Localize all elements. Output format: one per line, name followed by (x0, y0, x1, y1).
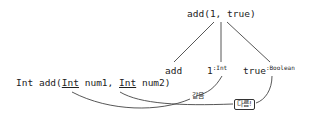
child-true: true:Boolean (243, 65, 295, 76)
function-name: add( (39, 77, 62, 88)
child-true-type: :Boolean (266, 64, 295, 71)
root-call: add(1, true) (187, 8, 256, 19)
child-1-type: :Int (213, 64, 227, 71)
child-add-label: add (165, 65, 182, 76)
param2-type: Int (119, 77, 136, 88)
return-type: Int (16, 77, 33, 88)
link-bool-to-different (256, 76, 272, 103)
child-true-label: true (243, 65, 266, 76)
param2-name: num2) (136, 77, 170, 88)
function-signature: Int add(Int num1, Int num2) (16, 77, 171, 88)
diagram-connectors (0, 0, 312, 119)
link-different-to-param2 (120, 92, 233, 105)
link-same-to-param1 (72, 92, 190, 108)
param1-name: num1, (79, 77, 119, 88)
annotation-same: 같음 (192, 90, 204, 100)
param1-type: Int (62, 77, 79, 88)
child-1-label: 1 (207, 65, 213, 76)
tree-edge-add (174, 22, 214, 62)
annotation-different: 다름! (234, 99, 255, 110)
child-1: 1:Int (207, 65, 227, 76)
child-add: add (165, 65, 182, 76)
tree-edge-true (227, 22, 270, 62)
